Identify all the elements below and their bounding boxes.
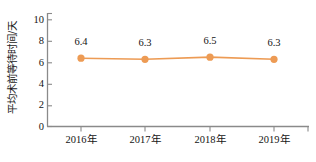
data-point-1: [141, 56, 148, 63]
y-axis-ticks: [48, 14, 53, 127]
data-point-0: [77, 55, 84, 62]
data-point-3: [270, 56, 277, 63]
line-chart: 平均术前等待时间/天 0 2 4 6 8 10 2016年 2017年 2018…: [0, 0, 316, 162]
series-line: [81, 57, 274, 59]
x-axis-ticks: [81, 127, 308, 132]
data-point-2: [206, 54, 213, 61]
plot-area: [0, 0, 316, 162]
